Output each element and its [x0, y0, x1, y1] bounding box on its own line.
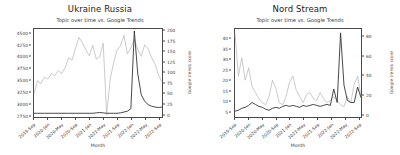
- y-tick-mark: [229, 90, 231, 91]
- y-tick-label: 25: [222, 67, 228, 72]
- x-tick-mark: [317, 118, 318, 120]
- y-tick-mark: [229, 111, 231, 112]
- y2-tick-mark: [163, 93, 165, 94]
- figure-canvas: Ukraine Russia Topic over time vs. Googl…: [0, 0, 400, 155]
- plot-area-1: [234, 28, 362, 118]
- y-tick-label: 4500: [17, 30, 28, 35]
- frequency-line-0: [34, 35, 162, 114]
- y2-tick-label: 175: [167, 38, 175, 43]
- x-axis-title-1: Month: [234, 143, 362, 148]
- y-tick-mark: [229, 38, 231, 39]
- y-tick-mark: [229, 69, 231, 70]
- frequency-line-1: [235, 33, 361, 107]
- y2-tick-mark: [163, 72, 165, 73]
- x-tick-mark: [248, 118, 249, 120]
- y2-tick-label: 50: [167, 91, 173, 96]
- right-y-axis-title-text: Google trends score: [389, 51, 394, 94]
- left-y-axis-ticks-1: 510152025303540: [201, 28, 231, 118]
- x-tick-mark: [131, 118, 132, 120]
- chart-title: Nord Stream: [200, 4, 400, 14]
- y2-tick-mark: [362, 75, 364, 76]
- y-tick-label: 3750: [17, 66, 28, 71]
- plot-lines-1: [235, 29, 361, 117]
- y-tick-label: 10: [222, 99, 228, 104]
- y-tick-label: 20: [222, 78, 228, 83]
- y-tick-label: 40: [222, 36, 228, 41]
- y2-tick-label: 60: [366, 53, 372, 58]
- y-tick-mark: [29, 115, 31, 116]
- right-y-axis-title-1: Google trends score: [386, 28, 396, 118]
- chart-subtitle: Topic over time vs. Google Trends: [0, 17, 200, 23]
- y-tick-mark: [29, 91, 31, 92]
- x-tick-mark: [117, 118, 118, 120]
- y-tick-label: 4000: [17, 54, 28, 59]
- x-axis-title-0: Month: [33, 143, 163, 148]
- x-tick-mark: [159, 118, 160, 120]
- y2-tick-mark: [362, 95, 364, 96]
- y-tick-mark: [29, 68, 31, 69]
- y-tick-label: 15: [222, 88, 228, 93]
- y2-tick-mark: [163, 104, 165, 105]
- y2-tick-mark: [163, 40, 165, 41]
- x-tick-mark: [103, 118, 104, 120]
- google-trends-line-1: [235, 33, 361, 111]
- y-tick-mark: [229, 101, 231, 102]
- y-tick-label: 30: [222, 57, 228, 62]
- y-tick-mark: [229, 59, 231, 60]
- x-axis-ticks-0: 2019-Sep2020-Jan2020-May2020-Sep2021-Jan…: [33, 118, 163, 144]
- y-tick-label: 35: [222, 46, 228, 51]
- x-tick-mark: [61, 118, 62, 120]
- x-tick-mark: [276, 118, 277, 120]
- y-tick-mark: [29, 80, 31, 81]
- chart-panel-nord-stream: Nord Stream Topic over time vs. Google T…: [200, 0, 400, 155]
- line-svg-1: [235, 29, 361, 117]
- x-tick-mark: [75, 118, 76, 120]
- y2-tick-label: 100: [167, 70, 175, 75]
- left-y-axis-ticks-0: 27503000325035003750400042504500: [1, 28, 31, 118]
- line-svg-0: [34, 29, 162, 117]
- chart-subtitle: Topic over time vs. Google Trends: [200, 17, 400, 23]
- y2-tick-label: 40: [366, 73, 372, 78]
- y2-tick-mark: [163, 114, 165, 115]
- y2-tick-mark: [362, 55, 364, 56]
- y-tick-mark: [29, 32, 31, 33]
- y2-tick-label: 25: [167, 102, 173, 107]
- x-tick-mark: [262, 118, 263, 120]
- plot-lines-0: [34, 29, 162, 117]
- x-tick-mark: [89, 118, 90, 120]
- chart-title: Ukraine Russia: [0, 4, 200, 14]
- right-y-axis-title-0: Google trends score: [184, 28, 194, 118]
- x-tick-mark: [145, 118, 146, 120]
- y2-tick-mark: [163, 82, 165, 83]
- x-tick-mark: [33, 118, 34, 120]
- y2-tick-label: 150: [167, 49, 175, 54]
- y2-tick-mark: [163, 51, 165, 52]
- y-tick-mark: [229, 80, 231, 81]
- y-tick-mark: [29, 56, 31, 57]
- y-tick-label: 3250: [17, 89, 28, 94]
- y2-tick-label: 20: [366, 93, 372, 98]
- y2-tick-label: 80: [366, 33, 372, 38]
- y-tick-mark: [229, 48, 231, 49]
- x-tick-mark: [345, 118, 346, 120]
- x-tick-mark: [303, 118, 304, 120]
- y2-tick-label: 125: [167, 59, 175, 64]
- y2-tick-label: 200: [167, 28, 175, 33]
- x-axis-ticks-1: 2019-Sep2020-Jan2020-May2020-Sep2021-Jan…: [234, 118, 362, 144]
- y-tick-label: 4250: [17, 42, 28, 47]
- y2-tick-mark: [163, 30, 165, 31]
- google-trends-line-0: [34, 31, 162, 113]
- chart-panel-ukraine-russia: Ukraine Russia Topic over time vs. Googl…: [0, 0, 200, 155]
- y2-tick-mark: [362, 115, 364, 116]
- y-tick-mark: [29, 44, 31, 45]
- right-y-axis-title-text: Google trends score: [187, 51, 192, 94]
- y2-tick-label: 0: [167, 112, 170, 117]
- y-tick-label: 2750: [17, 113, 28, 118]
- y2-tick-label: 75: [167, 80, 173, 85]
- y2-tick-label: 0: [366, 113, 369, 118]
- x-tick-mark: [331, 118, 332, 120]
- x-tick-mark: [359, 118, 360, 120]
- y2-tick-mark: [362, 35, 364, 36]
- plot-area-0: [33, 28, 163, 118]
- y2-tick-mark: [163, 61, 165, 62]
